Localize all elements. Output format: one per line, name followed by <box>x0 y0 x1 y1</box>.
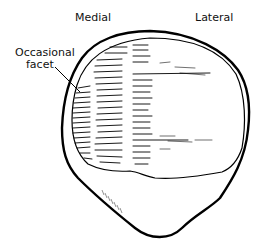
lateral-facet-hatching <box>160 62 212 149</box>
medial-facet-hatching <box>73 45 210 164</box>
patella-drawing <box>0 0 271 250</box>
